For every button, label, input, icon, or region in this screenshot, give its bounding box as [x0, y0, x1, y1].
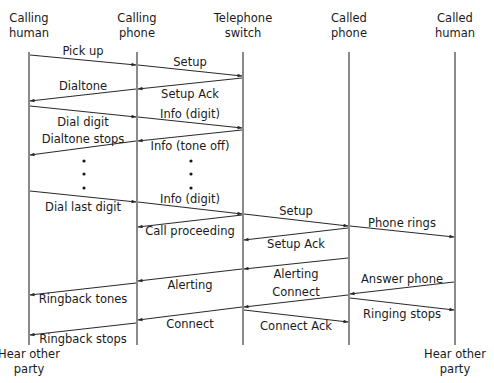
message-label: Phone rings [368, 216, 436, 230]
participant-label: Called [437, 11, 473, 25]
end-label: Hear other [424, 347, 486, 361]
message-arrow: Setup [138, 55, 242, 77]
participant-label: Calling [9, 11, 48, 25]
message-label: Info (tone off) [151, 139, 230, 153]
message-label: Ringing stops [363, 307, 441, 321]
message-label: Setup Ack [161, 87, 219, 101]
message-label: Dial last digit [45, 200, 121, 214]
ellipsis-dot [82, 186, 85, 189]
participant-switch: Telephoneswitch [213, 11, 272, 345]
message-arrow: Alerting [138, 269, 242, 292]
message-label: Call proceeding [145, 224, 235, 238]
message-label: Connect Ack [260, 319, 332, 333]
ellipsis-dot [189, 186, 192, 189]
message-label: Alerting [273, 267, 318, 281]
participants: CallinghumanHear otherpartyCallingphoneT… [0, 11, 486, 376]
message-arrow: Dialtone [30, 79, 136, 101]
message-label: Alerting [167, 278, 212, 292]
message-arrow: Ringback tones [30, 283, 136, 306]
message-label: Connect [272, 285, 320, 299]
end-label: Hear other [0, 347, 60, 361]
message-arrow: Dial last digit [30, 191, 136, 214]
message-arrow: Ringback stops [30, 323, 136, 346]
ellipsis-dot [82, 159, 85, 162]
message-arrow: Answer phone [350, 272, 454, 294]
participant-called-human: CalledhumanHear otherparty [424, 11, 486, 376]
message-label: Dialtone stops [42, 132, 125, 146]
message-arrow: Connect [138, 307, 242, 331]
participant-label: phone [331, 26, 367, 40]
message-label: Dialtone [59, 79, 107, 93]
participant-label: Calling [117, 11, 156, 25]
message-label: Answer phone [361, 272, 443, 286]
message-arrow: Pick up [30, 44, 136, 65]
end-label: party [440, 362, 471, 376]
message-label: Info (digit) [160, 192, 220, 206]
message-label: Pick up [62, 44, 103, 58]
ellipsis-dot [189, 159, 192, 162]
participant-label: Telephone [213, 11, 272, 25]
ellipsis-dot [189, 172, 192, 175]
message-arrow: Setup [244, 204, 348, 226]
message-arrow: Call proceeding [138, 215, 242, 238]
message-label: Info (digit) [160, 107, 220, 121]
message-label: Setup Ack [267, 237, 325, 251]
participant-label: human [435, 26, 475, 40]
message-arrow: Phone rings [350, 216, 454, 238]
message-label: Setup [279, 204, 312, 218]
message-arrow: Dial digit [30, 106, 136, 129]
message-arrow: Alerting [244, 258, 348, 281]
message-arrow: Connect [244, 285, 348, 307]
message-arrow: Setup Ack [244, 228, 348, 251]
message-arrow: Setup Ack [138, 78, 242, 101]
messages: Pick upSetupSetup AckDialtoneDial digitI… [30, 44, 454, 346]
sequence-diagram: CallinghumanHear otherpartyCallingphoneT… [0, 0, 494, 383]
message-label: Ringback tones [39, 292, 128, 306]
participant-label: Called [331, 11, 367, 25]
message-label: Ringback stops [39, 332, 127, 346]
message-label: Connect [166, 317, 214, 331]
ellipsis-dot [82, 172, 85, 175]
message-label: Setup [173, 55, 206, 69]
participant-called-phone: Calledphone [331, 11, 367, 345]
message-arrow: Ringing stops [350, 298, 454, 321]
message-arrow: Info (digit) [138, 192, 242, 214]
message-arrow: Dialtone stops [30, 132, 136, 155]
message-label: Dial digit [57, 115, 109, 129]
end-label: party [14, 362, 45, 376]
message-arrow: Info (tone off) [138, 130, 242, 153]
participant-label: human [9, 26, 49, 40]
message-arrow: Info (digit) [138, 107, 242, 129]
message-arrow: Connect Ack [244, 310, 348, 333]
participant-label: phone [119, 26, 155, 40]
participant-label: switch [225, 26, 262, 40]
diagram-canvas: CallinghumanHear otherpartyCallingphoneT… [0, 0, 494, 383]
